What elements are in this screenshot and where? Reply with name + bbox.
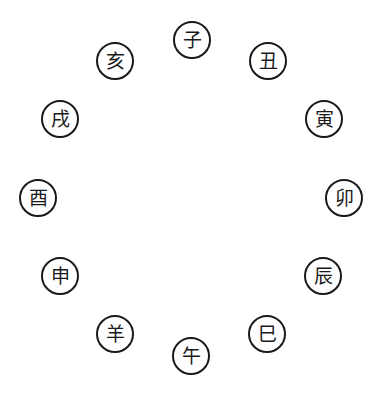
branch-glyph: 辰	[314, 267, 333, 286]
branch-glyph: 丑	[259, 52, 278, 71]
branch-glyph: 午	[182, 347, 201, 366]
branch-xu: 戌	[41, 100, 79, 138]
branch-glyph: 巳	[258, 325, 277, 344]
branch-zi: 子	[173, 21, 211, 59]
branch-hai: 亥	[96, 42, 134, 80]
branch-glyph: 戌	[51, 110, 70, 129]
branch-yin: 寅	[305, 100, 343, 138]
branch-mao: 卯	[325, 179, 363, 217]
branch-glyph: 卯	[335, 189, 354, 208]
branch-chen: 辰	[304, 257, 342, 295]
branch-chou: 丑	[249, 42, 287, 80]
branch-glyph: 亥	[106, 52, 125, 71]
branch-yang: 羊	[96, 315, 134, 353]
branch-glyph: 寅	[315, 110, 334, 129]
branch-shen: 申	[41, 257, 79, 295]
branch-you: 酉	[19, 179, 57, 217]
earthly-branches-diagram: 子 丑 寅 卯 辰 巳 午 羊 申 酉 戌 亥	[0, 0, 385, 397]
branch-si: 巳	[248, 315, 286, 353]
branch-glyph: 羊	[106, 325, 125, 344]
branch-glyph: 申	[51, 267, 70, 286]
branch-glyph: 子	[183, 31, 202, 50]
branch-glyph: 酉	[29, 189, 48, 208]
branch-wu: 午	[172, 337, 210, 375]
